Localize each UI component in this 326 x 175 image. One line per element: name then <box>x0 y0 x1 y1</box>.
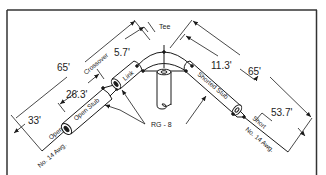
open-stub-label: Open Stub <box>72 96 101 122</box>
shorted-stub-length: 11.3' <box>211 60 232 71</box>
short-end-label: Short <box>251 114 268 129</box>
short-section-length: 53.7' <box>271 107 292 118</box>
link-length: 5.7' <box>114 47 130 58</box>
crossover-label: Crossover <box>82 51 110 76</box>
left-open-section-length: 33' <box>28 115 41 126</box>
antenna-stub-diagram: Tee RG - 8 65' 33' 26.3' 5.7' Crossover … <box>0 0 326 175</box>
open-stub-length: 26.3' <box>66 89 87 100</box>
right-total-length: 65' <box>248 66 261 77</box>
left-total-length: 65' <box>57 62 70 73</box>
left-wire-label: No. 14 Awg. <box>36 141 68 170</box>
tee-connector <box>136 45 194 109</box>
rg8-label: RG - 8 <box>151 121 172 128</box>
tee-label: Tee <box>159 23 170 30</box>
